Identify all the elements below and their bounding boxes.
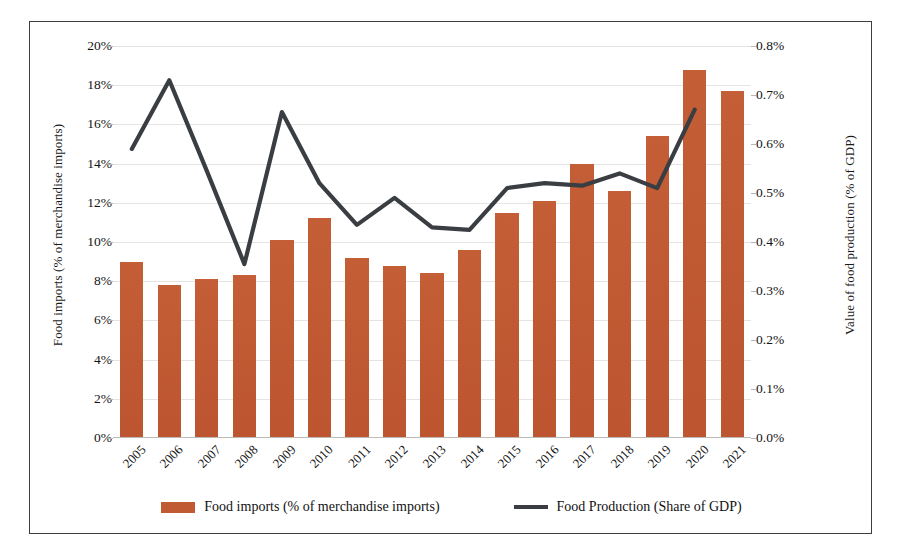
right-tick-label: 0.5% (756, 185, 810, 201)
left-tick-label: 10% (58, 234, 112, 250)
line-series (113, 46, 751, 438)
right-tick-label: 0.3% (756, 283, 810, 299)
left-tick-label: 6% (58, 312, 112, 328)
right-tickmark (751, 193, 756, 194)
right-axis-title: Value of food production (% of GDP) (842, 55, 858, 415)
right-tick-label: 0.0% (756, 430, 810, 446)
x-axis-baseline (113, 437, 751, 438)
right-tick-label: 0.8% (756, 38, 810, 54)
right-tick-label: 0.7% (756, 87, 810, 103)
right-tick-label: 0.6% (756, 136, 810, 152)
plot-area (113, 46, 751, 438)
chart-legend: Food imports (% of merchandise imports) … (30, 492, 873, 522)
left-tick-label: 8% (58, 273, 112, 289)
legend-item-food-production: Food Production (Share of GDP) (514, 499, 742, 515)
right-tickmark (751, 340, 756, 341)
right-tickmark (751, 389, 756, 390)
left-tick-label: 2% (58, 391, 112, 407)
left-tickmark (108, 438, 113, 439)
right-tickmark (751, 438, 756, 439)
left-tick-label: 12% (58, 195, 112, 211)
left-tick-label: 18% (58, 77, 112, 93)
right-tickmark (751, 46, 756, 47)
right-tick-label: 0.1% (756, 381, 810, 397)
left-tick-label: 16% (58, 116, 112, 132)
left-tick-label: 14% (58, 156, 112, 172)
left-tick-label: 4% (58, 352, 112, 368)
right-tick-label: 0.2% (756, 332, 810, 348)
x-axis-label-2013: 2013 (401, 442, 449, 490)
legend-label-food-imports: Food imports (% of merchandise imports) (204, 499, 439, 515)
legend-item-food-imports: Food imports (% of merchandise imports) (161, 499, 439, 515)
right-tickmark (751, 95, 756, 96)
right-tickmark (751, 291, 756, 292)
right-tickmark (751, 144, 756, 145)
legend-line-swatch-icon (514, 505, 548, 509)
right-tick-label: 0.4% (756, 234, 810, 250)
right-tickmark (751, 242, 756, 243)
food-production-line (132, 80, 695, 264)
left-tick-label: 20% (58, 38, 112, 54)
left-tick-label: 0% (58, 430, 112, 446)
chart-figure: Food imports (% of merchandise imports) … (29, 21, 872, 534)
legend-bar-swatch-icon (161, 502, 195, 513)
legend-label-food-production: Food Production (Share of GDP) (557, 499, 742, 515)
